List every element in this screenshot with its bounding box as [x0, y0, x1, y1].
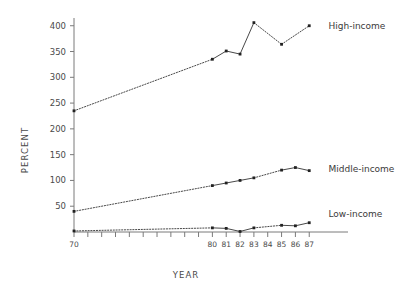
- series-segment: [295, 168, 309, 171]
- y-tick-label: 350: [50, 47, 66, 57]
- x-tick-label: 82: [235, 240, 245, 249]
- series-label-low-income: Low-income: [328, 209, 382, 219]
- series-segment: [240, 23, 254, 54]
- x-tick-label: 86: [291, 240, 301, 249]
- series-low-income: [73, 221, 311, 233]
- series-segment: [240, 178, 254, 181]
- y-tick-label: 300: [50, 72, 66, 82]
- x-axis: 708081828384858687: [69, 232, 348, 249]
- x-tick-label: 81: [221, 240, 231, 249]
- data-series-group: [73, 21, 311, 233]
- series-label-high-income: High-income: [328, 21, 385, 31]
- series-segment: [212, 183, 226, 186]
- data-point-marker: [308, 221, 311, 224]
- data-point-marker: [280, 43, 283, 46]
- y-tick-label: 400: [50, 21, 66, 31]
- x-tick-label: 87: [304, 240, 314, 249]
- data-point-marker: [225, 50, 228, 53]
- series-labels-group: High-incomeMiddle-incomeLow-income: [328, 21, 394, 219]
- data-point-marker: [239, 53, 242, 56]
- series-segment: [282, 225, 296, 226]
- series-segment: [226, 180, 240, 183]
- x-tick-label: 80: [208, 240, 218, 249]
- y-axis: 50100150200250300350400: [50, 18, 74, 232]
- data-point-marker: [252, 21, 255, 24]
- x-tick-label: 85: [277, 240, 287, 249]
- data-point-marker: [252, 226, 255, 229]
- line-chart: 50100150200250300350400 7080818283848586…: [0, 0, 403, 296]
- y-tick-label: 250: [50, 98, 66, 108]
- data-point-marker: [239, 179, 242, 182]
- data-point-marker: [211, 184, 214, 187]
- chart-container: 50100150200250300350400 7080818283848586…: [0, 0, 403, 296]
- y-tick-label: 150: [50, 150, 66, 160]
- data-point-marker: [252, 176, 255, 179]
- data-point-marker: [73, 210, 76, 213]
- series-middle-income: [73, 166, 311, 213]
- data-point-marker: [211, 58, 214, 61]
- series-segment: [240, 228, 254, 232]
- series-segment: [74, 59, 212, 111]
- x-tick-label: 84: [263, 240, 273, 249]
- data-point-marker: [211, 226, 214, 229]
- data-point-marker: [225, 227, 228, 230]
- series-segment: [254, 170, 282, 178]
- series-segment: [282, 26, 310, 45]
- series-segment: [282, 168, 296, 171]
- data-point-marker: [294, 166, 297, 169]
- series-segment: [295, 223, 309, 226]
- data-point-marker: [308, 169, 311, 172]
- series-segment: [74, 186, 212, 212]
- data-point-marker: [73, 109, 76, 112]
- x-tick-label: 83: [249, 240, 259, 249]
- x-tick-label: 70: [69, 240, 79, 249]
- series-segment: [212, 228, 226, 229]
- series-segment: [254, 225, 282, 228]
- y-tick-label: 200: [50, 124, 66, 134]
- data-point-marker: [308, 24, 311, 27]
- series-segment: [226, 51, 240, 54]
- x-axis-title: YEAR: [172, 270, 200, 280]
- series-segment: [226, 228, 240, 231]
- data-point-marker: [73, 230, 76, 233]
- data-point-marker: [280, 224, 283, 227]
- series-segment: [74, 228, 212, 231]
- y-tick-label: 100: [50, 175, 66, 185]
- series-segment: [212, 51, 226, 59]
- series-segment: [254, 23, 282, 45]
- y-axis-title: PERCENT: [20, 127, 30, 174]
- data-point-marker: [294, 224, 297, 227]
- series-label-middle-income: Middle-income: [328, 164, 394, 174]
- data-point-marker: [280, 169, 283, 172]
- y-tick-label: 50: [55, 201, 66, 211]
- data-point-marker: [239, 230, 242, 233]
- series-high-income: [73, 21, 311, 112]
- data-point-marker: [225, 182, 228, 185]
